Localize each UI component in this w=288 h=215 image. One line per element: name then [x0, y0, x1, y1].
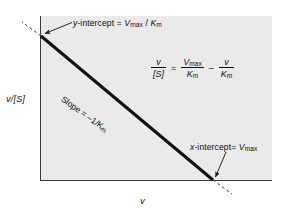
x-intercept-label: x-intercept= Vmax [190, 143, 257, 152]
equation-lhs-denominator: [S] [151, 68, 166, 79]
dashed-extension-upper [22, 22, 41, 36]
equation-term2-numerator: v [222, 56, 231, 67]
x-intercept-value-sub: max [245, 145, 258, 152]
x-intercept-leader-arrow [216, 152, 227, 177]
x-axis-label: v [140, 196, 145, 206]
y-axis-label: v/[S] [6, 94, 25, 104]
y-intercept-numerator-sub: max [130, 21, 143, 28]
equation: v [S] = Vmax Km – v Km [150, 56, 235, 79]
equation-operator: – [205, 63, 218, 73]
equation-lhs: v [S] [150, 56, 167, 79]
equation-term1: Vmax Km [180, 56, 204, 79]
y-intercept-text: -intercept = [77, 18, 124, 28]
y-intercept-label: y-intercept = Vmax / Km [73, 19, 162, 28]
equation-term1-denominator-sub: m [193, 72, 199, 79]
dashed-extension-lower [213, 180, 232, 194]
equation-term2-denominator: Km [219, 68, 235, 79]
equation-term1-numerator-sub: max [189, 60, 201, 67]
plot-graphics [0, 0, 288, 215]
equation-term1-denominator: Km [185, 68, 201, 79]
equation-lhs-numerator: v [154, 56, 163, 67]
eadie-hofstee-figure: v/[S] v y-intercept = Vmax / Km x-interc… [0, 0, 288, 215]
equation-term2-denominator-sub: m [227, 72, 233, 79]
y-intercept-leader-arrow [45, 23, 72, 34]
y-intercept-denominator-sub: m [156, 21, 162, 28]
x-intercept-text: -intercept= [194, 142, 238, 152]
equation-equals: = [167, 63, 180, 73]
equation-term1-numerator: Vmax [181, 56, 203, 67]
equation-term2: v Km [218, 56, 236, 79]
